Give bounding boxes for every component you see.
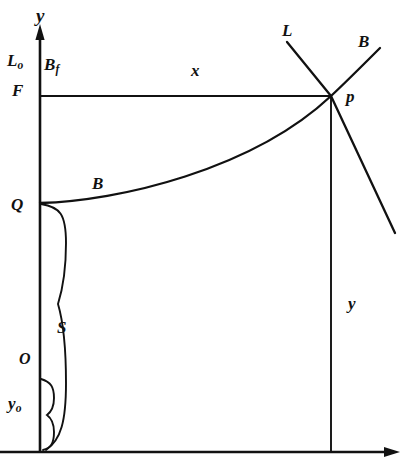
y-axis-group [35, 24, 44, 452]
y-zero-label: yo [8, 395, 22, 414]
x-horizontal-label: x [191, 62, 200, 79]
f-label: F [12, 82, 23, 99]
b-curve-upper-segment [331, 48, 380, 96]
l-line-label: L [282, 22, 292, 39]
origin-label: O [19, 351, 31, 367]
b-f-label: Bf [44, 56, 59, 75]
x-axis-arrowhead [384, 447, 400, 457]
l-zero-label: Lo [7, 52, 23, 71]
diagram-figure: y Lo F Bf x L B p B Q S O yo y [0, 0, 410, 474]
yo-brace [41, 379, 54, 450]
y-vertical-label: y [348, 295, 356, 312]
b-curve-upper-label: B [358, 33, 369, 50]
b-curve-label: B [92, 175, 103, 192]
b-curve-lower-segment [40, 96, 331, 203]
q-point-label: Q [11, 196, 23, 213]
p-point-label: p [346, 88, 355, 105]
x-axis-group [0, 447, 400, 457]
diagram-canvas [0, 0, 410, 474]
y-axis-arrowhead [35, 24, 44, 40]
s-brace-label: S [57, 319, 66, 336]
l-line [287, 42, 395, 233]
y-axis-label: y [36, 6, 44, 25]
